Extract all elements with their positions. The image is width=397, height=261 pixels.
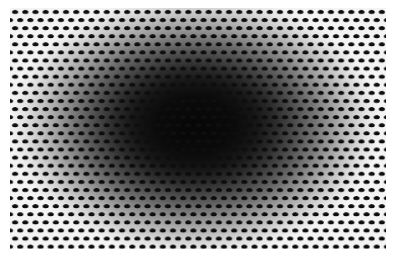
halftone-pattern-plate <box>10 8 386 249</box>
halftone-illusion-figure <box>0 0 397 261</box>
halftone-dot-field-offset <box>10 8 386 249</box>
